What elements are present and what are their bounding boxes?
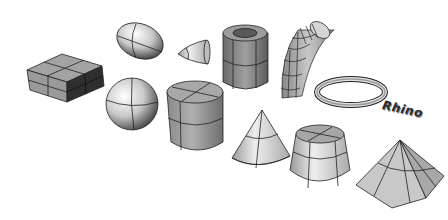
truncated-cone-shape — [290, 125, 350, 188]
sphere-shape — [106, 78, 158, 130]
torus-shape — [317, 79, 385, 105]
paraboloid-shape — [178, 40, 210, 64]
cone-shape — [232, 110, 290, 168]
ellipsoid-shape — [111, 16, 168, 66]
tube-shape — [223, 25, 268, 89]
box-shape — [27, 54, 104, 102]
pyramid-shape — [356, 140, 444, 208]
cylinder-shape — [167, 81, 223, 150]
